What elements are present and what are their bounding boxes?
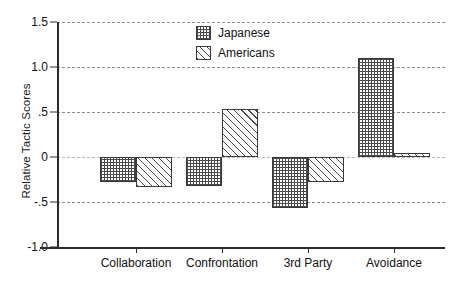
y-tick-label: 0 xyxy=(4,150,48,164)
legend: Japanese Americans xyxy=(196,24,275,64)
x-tick-mark xyxy=(136,247,137,253)
y-tick-label: 1.5 xyxy=(4,15,48,29)
y-tick-mark xyxy=(50,67,57,68)
bar-avoidance-americans xyxy=(394,153,430,158)
y-axis-tick-labels: 1.5 1.0 .5 0 -.5 -1.0 xyxy=(4,0,48,298)
x-tick-mark xyxy=(222,247,223,253)
x-tick-mark xyxy=(308,247,309,253)
y-tick-label: -.5 xyxy=(4,195,48,209)
bar-3rd-party-americans xyxy=(308,157,344,182)
x-category-label: Collaboration xyxy=(101,256,172,270)
bar-avoidance-japanese xyxy=(358,58,394,157)
gridline xyxy=(57,202,445,203)
y-tick-mark xyxy=(50,157,57,158)
y-tick-mark xyxy=(50,202,57,203)
legend-label-americans: Americans xyxy=(218,46,275,60)
bar-3rd-party-japanese xyxy=(272,157,308,208)
y-tick-mark xyxy=(50,22,57,23)
y-tick-label: 1.0 xyxy=(4,60,48,74)
legend-item-japanese: Japanese xyxy=(196,24,275,41)
bar-collaboration-japanese xyxy=(100,157,136,182)
x-tick-mark xyxy=(394,247,395,253)
x-category-label: Confrontation xyxy=(186,256,258,270)
bar-chart: Relative Tactic Scores 1.5 1.0 .5 0 -.5 … xyxy=(0,0,463,298)
legend-label-japanese: Japanese xyxy=(218,26,270,40)
gridline xyxy=(57,22,445,23)
legend-swatch-americans-icon xyxy=(196,46,211,60)
legend-swatch-japanese-icon xyxy=(196,26,211,40)
legend-item-americans: Americans xyxy=(196,44,275,61)
x-category-label: Avoidance xyxy=(366,256,422,270)
x-axis-line xyxy=(40,247,445,249)
y-axis-line xyxy=(57,22,59,248)
x-category-label: 3rd Party xyxy=(284,256,333,270)
y-tick-label: .5 xyxy=(4,105,48,119)
bar-confrontation-japanese xyxy=(186,157,222,186)
bar-confrontation-americans xyxy=(222,109,258,157)
y-tick-mark xyxy=(50,112,57,113)
bar-collaboration-americans xyxy=(136,157,172,187)
